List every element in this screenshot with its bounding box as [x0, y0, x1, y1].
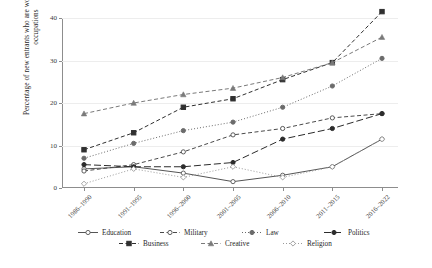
x-axis-tick-label: 1986–1990	[66, 193, 93, 220]
chart-figure: Percentage of new entrants who are women…	[0, 0, 432, 268]
legend-item-military[interactable]: Military	[159, 228, 241, 237]
series-creative	[81, 34, 384, 115]
chart-legend: EducationMilitaryLawPoliticsBusinessCrea…	[62, 228, 420, 248]
series-lines	[62, 18, 362, 168]
legend-label: Education	[102, 229, 131, 237]
legend-marker-icon	[241, 228, 263, 237]
legend-label: Law	[266, 229, 279, 237]
x-axis-tick-mark	[332, 188, 333, 191]
legend-label: Business	[143, 240, 169, 248]
x-axis-tick-mark	[84, 188, 85, 191]
x-axis-tick-mark	[134, 188, 135, 191]
legend-item-creative[interactable]: Creative	[200, 239, 282, 248]
legend-marker-icon	[323, 228, 345, 237]
x-axis-tick-mark	[283, 188, 284, 191]
x-axis-tick-label: 2006–2010	[265, 193, 292, 220]
series-law	[82, 56, 384, 160]
legend-marker-icon	[77, 228, 99, 237]
x-axis-tick-mark	[382, 188, 383, 191]
legend-label: Religion	[307, 240, 332, 248]
y-axis-tick-mark	[59, 188, 62, 189]
series-business	[82, 9, 384, 152]
plot-area: 010203040 1986–19901991–19951996–2000200…	[62, 18, 398, 188]
legend-marker-icon	[200, 239, 222, 248]
legend-marker-icon	[159, 228, 181, 237]
x-axis-tick-label: 2011–2015	[315, 193, 341, 219]
legend-item-religion[interactable]: Religion	[282, 239, 364, 248]
x-axis-tick-label: 1996–2000	[166, 193, 193, 220]
x-axis-tick-mark	[233, 188, 234, 191]
x-axis-tick-label: 2016–2022	[364, 193, 391, 220]
legend-marker-icon	[282, 239, 304, 248]
x-axis-tick-mark	[183, 188, 184, 191]
y-axis-title: Percentage of new entrants who are women…	[23, 0, 53, 120]
legend-item-law[interactable]: Law	[241, 228, 323, 237]
legend-item-education[interactable]: Education	[77, 228, 159, 237]
x-axis-tick-label: 2001–2005	[215, 193, 242, 220]
x-axis-tick-label: 1991–1995	[116, 193, 143, 220]
legend-item-business[interactable]: Business	[118, 239, 200, 248]
legend-label: Creative	[225, 240, 249, 248]
legend-item-politics[interactable]: Politics	[323, 228, 405, 237]
legend-label: Military	[184, 229, 208, 237]
legend-label: Politics	[348, 229, 370, 237]
legend-marker-icon	[118, 239, 140, 248]
